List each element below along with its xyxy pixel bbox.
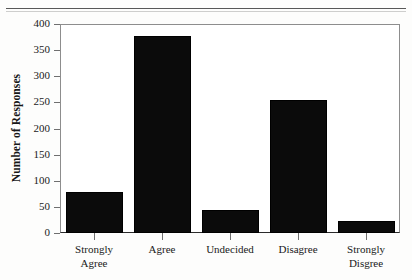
bar [270,100,327,233]
x-tick-mark [162,233,163,240]
x-tick-mark [366,233,367,240]
y-tick-label: 250 [0,96,50,107]
y-axis-ticks: 050100150200250300350400 [0,0,60,280]
page-top-rule-shadow [6,11,406,12]
bars-layer [60,24,400,233]
x-axis-label: Strongly Disgree [324,243,408,270]
y-tick-label: 300 [0,70,50,81]
y-tick-label-text: 200 [4,123,50,134]
y-tick-label: 200 [0,123,50,134]
y-tick-label: 150 [0,149,50,160]
bar [134,36,191,233]
page-top-rule [6,8,406,9]
y-tick-label-text: 150 [4,149,50,160]
y-tick-label-text: 350 [4,44,50,55]
y-tick-label-text: 100 [4,175,50,186]
bar [202,210,259,233]
y-tick-label: 350 [0,44,50,55]
y-tick-label-text: 400 [4,18,50,29]
y-tick-label: 50 [0,201,50,212]
bar [338,221,395,233]
y-tick-label-text: 250 [4,96,50,107]
y-tick-label-text: 0 [4,227,50,238]
figure-canvas: Number of Responses 05010015020025030035… [0,0,412,280]
x-tick-mark [298,233,299,240]
x-tick-mark [94,233,95,240]
y-tick-label: 100 [0,175,50,186]
y-tick-label-text: 50 [4,201,50,212]
y-tick-mark [54,233,60,234]
x-tick-mark [230,233,231,240]
y-tick-label-text: 300 [4,70,50,81]
y-tick-label: 400 [0,18,50,29]
y-tick-label: 0 [0,227,50,238]
bar [66,192,123,233]
